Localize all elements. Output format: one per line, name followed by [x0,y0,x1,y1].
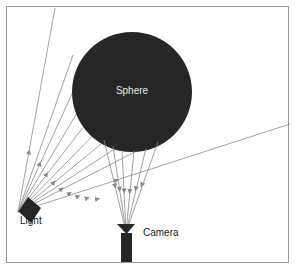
reflectance-diagram: Sphere Light Camera [0,0,299,273]
reflected-arrowhead [119,187,120,190]
camera-body-shape [121,233,132,262]
light-label: Light [20,215,42,226]
sphere-label: Sphere [116,85,149,96]
camera-label: Camera [143,227,179,238]
incident-arrowhead [96,199,99,200]
